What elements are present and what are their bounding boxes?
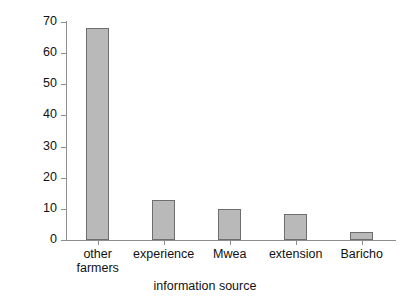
x-tick-mark xyxy=(296,241,297,245)
y-tick: 70 xyxy=(0,22,66,23)
y-tick-label: 20 xyxy=(43,170,57,185)
bar xyxy=(284,214,307,240)
plot-area xyxy=(66,22,396,240)
x-tick-mark xyxy=(362,241,363,245)
bar xyxy=(218,209,241,240)
x-tick-mark xyxy=(230,241,231,245)
bar xyxy=(86,28,109,240)
x-tick-mark xyxy=(164,241,165,245)
x-axis-title: information source xyxy=(0,279,410,293)
y-tick-mark xyxy=(61,240,66,241)
y-tick-label: 40 xyxy=(43,107,57,122)
x-axis-line xyxy=(66,240,396,241)
y-tick-label: 30 xyxy=(43,139,57,154)
y-tick-label: 70 xyxy=(43,14,57,29)
y-tick-label: 10 xyxy=(43,201,57,216)
y-tick: 40 xyxy=(0,115,66,116)
y-tick: 0 xyxy=(0,240,66,241)
y-tick: 50 xyxy=(0,84,66,85)
bar-chart: percentage of farmers 010203040506070 ot… xyxy=(0,0,410,298)
y-tick-label: 60 xyxy=(43,45,57,60)
x-tick-mark xyxy=(98,241,99,245)
y-tick: 30 xyxy=(0,147,66,148)
x-tick-label: Baricho xyxy=(317,247,407,261)
y-tick: 10 xyxy=(0,209,66,210)
bar xyxy=(350,232,373,240)
y-tick-label: 50 xyxy=(43,76,57,91)
y-tick-label: 0 xyxy=(50,232,57,247)
bar xyxy=(152,200,175,240)
y-tick: 60 xyxy=(0,53,66,54)
y-tick: 20 xyxy=(0,178,66,179)
